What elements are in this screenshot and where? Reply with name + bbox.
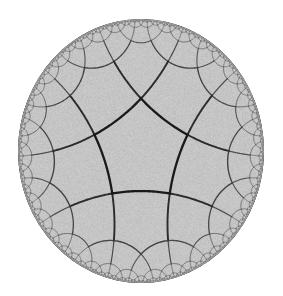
hyperbolic-tiling-figure [0,0,283,296]
poincare-disk-canvas [0,0,283,296]
